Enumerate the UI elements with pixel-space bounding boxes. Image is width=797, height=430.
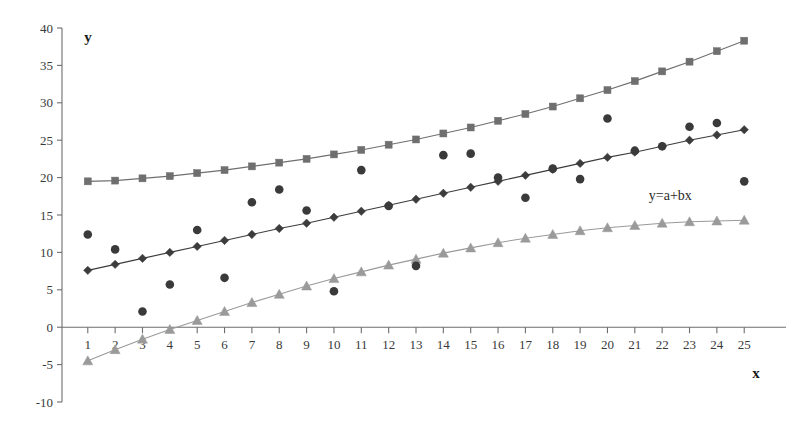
data-point-diamond: [248, 230, 256, 238]
y-tick-label: -10: [36, 395, 53, 410]
data-point-square: [112, 177, 119, 184]
data-point-square: [358, 146, 365, 153]
data-point-square: [467, 124, 474, 131]
data-point-square: [495, 117, 502, 124]
x-tick-label: 24: [710, 337, 724, 352]
data-point-triangle: [220, 306, 230, 315]
x-axis-title: x: [752, 365, 760, 381]
x-tick-label: 5: [194, 337, 201, 352]
x-tick-label: 8: [276, 337, 283, 352]
data-point-square: [303, 155, 310, 162]
y-tick-label: 15: [40, 208, 53, 223]
y-tick-label: 35: [40, 58, 53, 73]
data-point-diamond: [138, 254, 146, 262]
x-tick-label: 23: [683, 337, 696, 352]
data-point-circle: [412, 262, 421, 271]
x-tick-label: 12: [382, 337, 395, 352]
data-point-circle: [576, 175, 585, 184]
x-tick-label: 4: [167, 337, 174, 352]
x-tick-label: 9: [303, 337, 310, 352]
data-point-circle: [275, 185, 284, 194]
series-upper-fit: [84, 37, 747, 185]
data-point-circle: [138, 307, 147, 316]
x-tick-label: 19: [574, 337, 587, 352]
data-point-square: [413, 136, 420, 143]
data-point-circle: [302, 206, 311, 215]
data-point-square: [577, 95, 584, 102]
x-tick-label: 20: [601, 337, 614, 352]
data-point-square: [549, 103, 556, 110]
regression-chart: -10-505101520253035401234567891011121314…: [0, 0, 797, 430]
data-point-diamond: [330, 213, 338, 221]
data-point-square: [330, 151, 337, 158]
data-point-circle: [713, 119, 722, 128]
data-point-triangle: [739, 215, 749, 224]
data-point-square: [741, 37, 748, 44]
data-point-triangle: [165, 324, 175, 333]
x-tick-label: 21: [628, 337, 641, 352]
data-point-diamond: [576, 159, 584, 167]
series-observations: [83, 114, 748, 316]
data-point-diamond: [357, 207, 365, 215]
data-point-diamond: [166, 248, 174, 256]
x-tick-label: 18: [546, 337, 559, 352]
y-tick-label: 25: [40, 133, 53, 148]
data-point-square: [713, 48, 720, 55]
data-point-diamond: [111, 260, 119, 268]
y-tick-label: 30: [40, 95, 53, 110]
data-point-square: [276, 159, 283, 166]
data-point-square: [631, 78, 638, 85]
y-tick-label: -5: [42, 357, 53, 372]
data-point-circle: [357, 166, 366, 175]
data-point-circle: [466, 149, 475, 158]
data-point-square: [221, 167, 228, 174]
y-tick-label: 20: [40, 170, 53, 185]
x-tick-label: 10: [327, 337, 340, 352]
axes-group: -10-505101520253035401234567891011121314…: [36, 21, 786, 410]
data-point-diamond: [84, 266, 92, 274]
data-point-square: [139, 175, 146, 182]
data-point-diamond: [275, 224, 283, 232]
data-point-square: [248, 163, 255, 170]
data-point-diamond: [220, 236, 228, 244]
data-point-circle: [658, 142, 667, 151]
data-point-square: [84, 178, 91, 185]
data-point-circle: [631, 146, 640, 155]
data-point-square: [604, 87, 611, 94]
data-point-diamond: [467, 183, 475, 191]
data-point-diamond: [603, 153, 611, 161]
x-tick-label: 16: [492, 337, 506, 352]
data-point-circle: [603, 114, 612, 123]
data-point-circle: [166, 280, 175, 289]
data-point-circle: [83, 230, 92, 239]
data-point-circle: [548, 164, 557, 173]
data-point-circle: [685, 122, 694, 131]
data-point-diamond: [713, 131, 721, 139]
series-line-upper-fit: [88, 41, 744, 182]
y-tick-label: 5: [47, 282, 54, 297]
data-point-diamond: [412, 195, 420, 203]
data-point-square: [686, 58, 693, 65]
data-point-triangle: [192, 315, 202, 324]
chart-canvas: -10-505101520253035401234567891011121314…: [0, 0, 797, 430]
chart-annotation: y=a+bx: [649, 188, 692, 203]
x-tick-label: 13: [410, 337, 423, 352]
y-axis-title: y: [84, 29, 92, 45]
data-point-circle: [521, 193, 530, 202]
data-point-circle: [193, 226, 202, 235]
data-point-diamond: [685, 136, 693, 144]
data-point-square: [194, 170, 201, 177]
data-point-square: [440, 130, 447, 137]
x-tick-label: 14: [437, 337, 451, 352]
x-tick-label: 6: [221, 337, 228, 352]
data-point-square: [659, 68, 666, 75]
x-tick-label: 25: [738, 337, 751, 352]
data-point-diamond: [439, 189, 447, 197]
data-point-circle: [740, 177, 749, 186]
x-tick-label: 7: [249, 337, 256, 352]
y-tick-label: 40: [40, 21, 53, 36]
data-point-triangle: [83, 356, 93, 365]
x-tick-label: 17: [519, 337, 533, 352]
data-point-circle: [111, 245, 120, 254]
data-point-circle: [384, 202, 393, 211]
